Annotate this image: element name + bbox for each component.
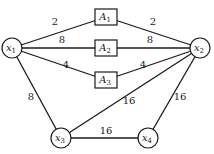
edge-weight-label: 8: [28, 91, 34, 102]
edge-weight-label: 2: [52, 16, 58, 27]
edge-weight-label: 16: [174, 91, 187, 102]
edge-weight-label: 2: [150, 16, 156, 27]
edge-weight-label: 8: [59, 34, 65, 45]
node-x4: x4: [138, 128, 158, 148]
node-A1: A1: [95, 9, 117, 25]
node-A2: A2: [95, 40, 117, 56]
edge-weight-label: 16: [123, 95, 136, 106]
edge-A3-x2: [106, 48, 200, 80]
network-diagram: x1x2x3x4A1A2A3 2288448161616: [0, 0, 214, 154]
node-x3: x3: [51, 128, 71, 148]
edge-weight-label: 4: [140, 59, 146, 70]
node-x1: x1: [2, 38, 22, 58]
edge-weight-label: 8: [147, 34, 153, 45]
edge-weight-label: 4: [63, 59, 69, 70]
edge-weight-label: 16: [100, 125, 113, 136]
node-x2: x2: [190, 38, 210, 58]
node-A3: A3: [95, 72, 117, 88]
